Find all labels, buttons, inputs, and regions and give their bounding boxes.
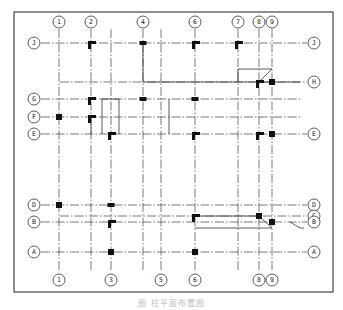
figure-caption: 图 柱平面布置图 [0,297,343,308]
svg-text:F: F [32,113,36,121]
drawing-frame [14,12,333,292]
svg-text:J: J [312,39,316,47]
vertical-axis-lines [59,29,272,272]
svg-text:8: 8 [257,276,261,284]
svg-text:4: 4 [141,18,145,26]
svg-text:1: 1 [57,18,61,26]
structural-columns [56,41,275,255]
svg-text:A: A [32,248,36,256]
svg-text:1: 1 [57,276,61,284]
svg-text:8: 8 [257,18,261,26]
svg-text:7: 7 [236,18,240,26]
svg-text:D: D [32,201,36,209]
svg-text:9: 9 [270,18,274,26]
svg-text:6: 6 [193,18,197,26]
svg-text:6: 6 [193,276,197,284]
svg-text:E: E [312,130,316,138]
svg-text:B: B [312,218,316,226]
svg-text:D: D [312,201,316,209]
svg-text:9: 9 [270,276,274,284]
svg-text:H: H [312,78,316,86]
svg-text:G: G [32,95,36,103]
svg-text:5: 5 [159,276,163,284]
svg-text:2: 2 [89,18,93,26]
column-layout-plan: 1123456678899JJHGFEEDDCBBAA [0,0,343,310]
svg-text:E: E [32,130,36,138]
svg-text:A: A [312,248,316,256]
svg-text:3: 3 [109,276,113,284]
svg-text:B: B [32,218,36,226]
svg-text:J: J [32,39,36,47]
axis-bubbles: 1123456678899JJHGFEEDDCBBAA [28,16,320,286]
